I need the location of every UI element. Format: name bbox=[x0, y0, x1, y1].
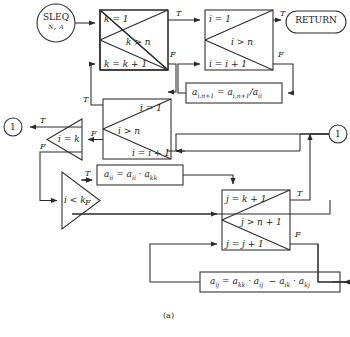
connector-1-left: 1 bbox=[10, 123, 16, 132]
connector-1-right: 1 bbox=[335, 130, 341, 139]
loop-box-k-false-label: F bbox=[170, 51, 176, 59]
loop-box-i-middle-incr: i = i + 1 bbox=[132, 149, 170, 158]
loop-box-i-top-test: i > n bbox=[231, 38, 253, 47]
loop-box-k-init: k = 1 bbox=[104, 15, 128, 24]
loop-box-i-top-incr: i = i + 1 bbox=[209, 60, 247, 69]
loop-box-j-test: j > n + 1 bbox=[241, 218, 282, 227]
loop-box-i-top-false-label: F bbox=[278, 51, 284, 59]
loop-box-i-middle-false-label: F bbox=[91, 130, 97, 138]
return-terminal: RETURN bbox=[289, 16, 343, 25]
decision-i-equals-k-test: i = k bbox=[58, 135, 80, 144]
decision-i-equals-k-true-label: T bbox=[40, 117, 45, 125]
loop-box-i-middle-true-label: T bbox=[83, 96, 88, 104]
loop-box-i-middle-test: i > n bbox=[118, 127, 140, 136]
process-diagonal-product-label: aii = aii · akk bbox=[104, 170, 157, 181]
loop-box-k-incr: k = k + 1 bbox=[104, 60, 147, 69]
decision-i-less-than-k-false-label: F bbox=[85, 199, 91, 207]
loop-box-i-top-init: i = 1 bbox=[209, 15, 231, 24]
loop-box-i-top-true-label: T bbox=[280, 10, 285, 18]
loop-box-j-false-label: F bbox=[295, 231, 301, 239]
loop-box-j-init: j = k + 1 bbox=[226, 195, 267, 204]
decision-i-less-than-k-true-label: T bbox=[85, 170, 90, 178]
decision-i-less-than-k-test: i < k bbox=[64, 196, 86, 205]
start-terminal: SLEQ n, a bbox=[37, 13, 75, 32]
loop-box-i-middle-init: i = 1 bbox=[140, 104, 162, 113]
start-terminal-line2: n, a bbox=[48, 21, 63, 31]
return-terminal-label: RETURN bbox=[295, 15, 337, 25]
figure-caption: (a) bbox=[163, 311, 174, 320]
loop-box-k-true-label: T bbox=[176, 10, 181, 18]
loop-box-j-incr: j = j + 1 bbox=[226, 240, 264, 249]
process-divide-pivot-label: ai,n+1 = ai,n+1/aii bbox=[192, 88, 262, 99]
loop-box-k-test: k > n bbox=[126, 38, 151, 47]
process-element-update-label: aij = akk · aij − aik · akj bbox=[210, 277, 310, 288]
flowchart-figure: SLEQ n, a RETURN 1 1 k = 1 k > n k = k +… bbox=[0, 0, 350, 337]
decision-i-equals-k-false-label: F bbox=[40, 143, 46, 151]
loop-box-j-true-label: T bbox=[297, 190, 302, 198]
